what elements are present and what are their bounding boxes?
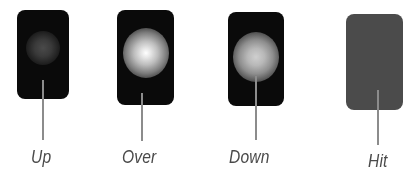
glow-down: [233, 32, 279, 82]
label-up: Up: [31, 146, 51, 168]
leader-line-down: [255, 76, 257, 140]
leader-line-up: [42, 80, 44, 140]
glow-over: [123, 28, 169, 78]
label-hit: Hit: [368, 150, 388, 172]
button-shape-over: [117, 10, 174, 105]
label-over: Over: [122, 146, 156, 168]
button-shape-hit: [346, 14, 403, 110]
leader-line-hit: [377, 90, 379, 145]
leader-line-over: [141, 93, 143, 141]
label-down: Down: [229, 146, 270, 168]
glow-up: [26, 31, 60, 65]
